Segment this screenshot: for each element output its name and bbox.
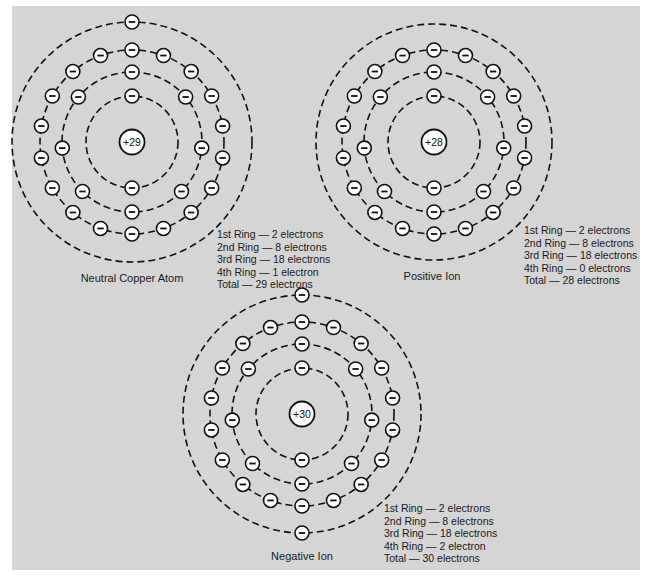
atom-diagrams: +29+28+30 [0,0,652,588]
electron-icon [241,362,255,376]
electron-icon [34,151,48,165]
electron-icon [396,49,410,63]
electron-icon [184,205,198,219]
electron-icon [427,205,441,219]
electron-icon [125,89,139,103]
electron-icon [66,65,80,79]
legend-ring-2: 2nd Ring — 8 electrons [524,237,637,250]
electron-icon [216,151,230,165]
electron-icon [486,205,500,219]
electron-icon [295,526,309,540]
electron-icon [427,89,441,103]
electron-icon [427,65,441,79]
electron-icon [195,141,209,155]
electron-icon [378,184,392,198]
electron-icon [205,181,219,195]
electron-icon [156,49,170,63]
legend-total: Total — 30 electrons [384,552,497,565]
electron-icon [295,453,309,467]
electron-icon [66,205,80,219]
electron-icon [486,65,500,79]
electron-icon [204,391,218,405]
electron-icon [295,315,309,329]
electron-icon [225,413,239,427]
legend-ring-3: 3rd Ring — 18 electrons [524,249,637,262]
electron-icon [326,321,340,335]
electron-icon [125,227,139,241]
electron-icon [94,49,108,63]
electron-icon [76,184,90,198]
nucleus-charge: +30 [293,408,311,420]
electron-icon [476,184,490,198]
electron-icon [45,181,59,195]
electron-icon [125,181,139,195]
electron-icon [427,181,441,195]
legend-ring-4: 4th Ring — 1 electron [217,266,330,279]
legend-ring-2: 2nd Ring — 8 electrons [384,515,497,528]
electron-icon [216,119,230,133]
electron-icon [215,361,229,375]
electron-icon [34,119,48,133]
electron-icon [125,15,139,29]
electron-icon [368,65,382,79]
positive-ion-legend: 1st Ring — 2 electrons 2nd Ring — 8 elec… [524,224,637,287]
electron-icon [336,151,350,165]
positive-ion-label: Positive Ion [404,270,461,282]
positive-atom: +28 [316,24,552,260]
electron-icon [507,181,521,195]
electron-icon [481,90,495,104]
electron-icon [357,141,371,155]
electron-icon [458,221,472,235]
nucleus-icon: +30 [290,402,315,427]
legend-ring-1: 1st Ring — 2 electrons [217,228,330,241]
neutral-atom: +29 [12,15,252,262]
electron-icon [375,453,389,467]
electron-icon [347,181,361,195]
legend-ring-1: 1st Ring — 2 electrons [524,224,637,237]
electron-icon [349,362,363,376]
electron-icon [264,321,278,335]
legend-ring-1: 1st Ring — 2 electrons [384,502,497,515]
nucleus-charge: +28 [425,136,443,148]
electron-icon [174,184,188,198]
electron-icon [344,456,358,470]
electron-icon [179,90,193,104]
electron-icon [518,151,532,165]
electron-icon [507,89,521,103]
electron-icon [125,43,139,57]
electron-icon [236,477,250,491]
legend-total: Total — 28 electrons [524,274,637,287]
electron-icon [347,89,361,103]
electron-icon [295,477,309,491]
legend-ring-3: 3rd Ring — 18 electrons [384,527,497,540]
electron-icon [236,337,250,351]
electron-icon [125,65,139,79]
electron-icon [45,89,59,103]
electron-icon [326,493,340,507]
nucleus-charge: +29 [123,136,141,148]
nucleus-icon: +28 [422,130,447,155]
electron-icon [204,423,218,437]
nucleus-icon: +29 [120,130,145,155]
legend-ring-4: 4th Ring — 0 electrons [524,262,637,275]
electron-icon [55,141,69,155]
negative-ion-legend: 1st Ring — 2 electrons 2nd Ring — 8 elec… [384,502,497,565]
electron-icon [205,89,219,103]
electron-icon [518,119,532,133]
electron-icon [386,423,400,437]
electron-icon [184,65,198,79]
electron-icon [458,49,472,63]
electron-icon [156,221,170,235]
electron-icon [365,413,379,427]
electron-icon [295,337,309,351]
electron-icon [336,119,350,133]
negative-ion-label: Negative Ion [271,550,333,562]
electron-icon [396,221,410,235]
electron-icon [125,205,139,219]
electron-icon [295,361,309,375]
electron-icon [94,221,108,235]
neutral-atom-label: Neutral Copper Atom [81,272,184,284]
electron-icon [246,456,260,470]
neutral-atom-legend: 1st Ring — 2 electrons 2nd Ring — 8 elec… [217,228,330,291]
electron-icon [368,205,382,219]
